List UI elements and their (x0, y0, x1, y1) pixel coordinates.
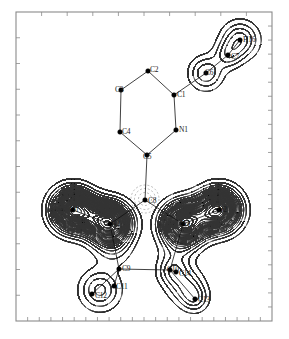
bond-C5-C8 (145, 155, 147, 200)
atom-marker-c13[interactable] (193, 297, 198, 302)
atom-label-c3: C3 (115, 86, 123, 94)
atom-marker-h16[interactable] (238, 38, 243, 43)
atom-label-c9: C9 (122, 265, 130, 273)
atom-label-c1: C1 (177, 91, 185, 99)
atom-label-c12: C12 (95, 292, 107, 300)
atom-label-c7: C7 (231, 53, 239, 61)
atom-marker-c9[interactable] (117, 267, 122, 272)
atom-markers (71, 38, 243, 302)
bond-C1-C2 (148, 71, 174, 95)
atom-label-c2: C2 (150, 66, 158, 74)
atom-label-c13: C13 (198, 296, 210, 304)
atom-label-n1: N1 (179, 126, 188, 134)
contour-positive (63, 200, 229, 236)
atom-label-c10: C10 (167, 266, 179, 274)
atom-label-h16: H16 (243, 36, 255, 44)
bond-C2-C3 (121, 71, 148, 90)
atom-label-c11: C11 (116, 283, 128, 291)
atom-label-o2: O2 (218, 206, 227, 214)
contour-plot-canvas (0, 0, 289, 339)
electron-density-figure: N1C1C2C3C4C5C6C7H16C8O1N2N3O2C9C10C11C12… (0, 0, 289, 339)
atom-label-c14: C14 (179, 270, 191, 278)
atom-label-n2: N2 (111, 220, 120, 228)
atom-marker-c1[interactable] (172, 93, 177, 98)
atom-marker-c12[interactable] (90, 292, 95, 297)
atom-label-o1: O1 (70, 206, 79, 214)
atom-label-c4: C4 (122, 128, 130, 136)
bond-N3-C10 (170, 224, 183, 270)
bond-C5-N1 (147, 130, 176, 155)
atom-label-n3: N3 (181, 220, 190, 228)
atom-label-c6: C6 (205, 69, 213, 77)
contour-positive (65, 201, 228, 234)
atom-label-c5: C5 (143, 153, 151, 161)
bond-N1-C1 (174, 95, 176, 130)
bond-C3-C4 (120, 90, 121, 132)
atom-label-c8: C8 (148, 197, 156, 205)
molecule-bonds (73, 40, 240, 299)
atom-marker-c8[interactable] (143, 198, 148, 203)
atom-marker-n1[interactable] (174, 128, 179, 133)
atom-marker-c7[interactable] (226, 53, 231, 58)
